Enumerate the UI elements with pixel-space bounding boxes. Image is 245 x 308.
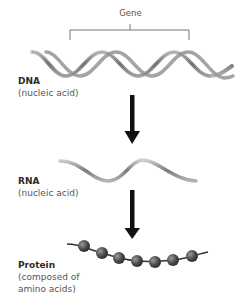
arrow-dna-to-rna (125, 95, 141, 144)
amino-acid-bead (149, 256, 161, 268)
rna-strand (60, 160, 196, 181)
protein-title: Protein (18, 259, 79, 271)
dna-title: DNA (18, 75, 78, 87)
arrow-rna-to-protein (125, 190, 141, 239)
rna-label-group: RNA (nucleic acid) (18, 175, 78, 199)
dna-label-group: DNA (nucleic acid) (18, 75, 78, 99)
gene-bracket (70, 24, 189, 40)
amino-acid-bead (186, 250, 198, 262)
amino-acid-bead (96, 247, 108, 259)
gene-expression-diagram: Gene DNA (nucleic acid) RNA (nucleic aci… (0, 0, 245, 308)
rna-subtitle: (nucleic acid) (18, 187, 78, 199)
amino-acid-bead (113, 252, 125, 264)
protein-subtitle-line1: (composed of (18, 271, 79, 283)
protein-subtitle-line2: amino acids) (18, 283, 79, 295)
rna-title: RNA (18, 175, 78, 187)
dna-subtitle: (nucleic acid) (18, 87, 78, 99)
gene-label: Gene (0, 8, 245, 18)
amino-acid-bead (167, 254, 179, 266)
amino-acid-bead (131, 255, 143, 267)
amino-acid-bead (78, 240, 90, 252)
protein-label-group: Protein (composed of amino acids) (18, 259, 79, 295)
protein-chain (67, 240, 208, 268)
